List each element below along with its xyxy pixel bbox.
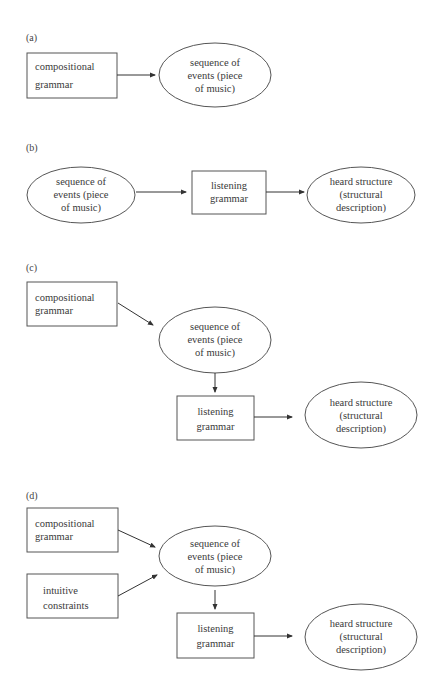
text-line: compositional [35,291,95,304]
text-line: description) [306,422,416,435]
panel-b-heard-structure-text: heard structure (structural description) [306,175,416,214]
panel-a-compositional-grammar-text: compositional grammar [35,58,95,94]
panel-d-heard-structure-text: heard structure (structural description) [306,617,416,656]
panel-c-label: (c) [26,262,37,273]
text-line: description) [306,643,416,656]
panel-c-compositional-grammar-text: compositional grammar [35,291,95,317]
panel-d-arrow-constraints-to-events [118,575,157,596]
figure-caption-clipped [26,680,416,686]
panel-b-label: (b) [26,142,38,153]
panel-d-compositional-grammar-text: compositional grammar [35,517,95,543]
panel-d-sequence-of-events-text: sequence of events (piece of music) [165,537,265,576]
text-line: listening [192,179,266,192]
panel-d-label: (d) [26,490,38,501]
text-line: compositional [35,58,95,76]
text-line: heard structure [306,175,416,188]
text-line: grammar [177,636,254,651]
text-line: heard structure [306,617,416,630]
panel-a-label: (a) [26,32,37,43]
text-line: of music) [165,82,265,95]
text-line: sequence of [165,537,265,550]
panel-b-sequence-of-events-text: sequence of events (piece of music) [31,175,131,214]
text-line: description) [306,201,416,214]
text-line: grammar [35,530,95,543]
text-line: compositional [35,517,95,530]
text-line: of music) [31,201,131,214]
text-line: heard structure [306,396,416,409]
text-line: sequence of [31,175,131,188]
panel-d-listening-grammar-text: listening grammar [177,621,254,651]
text-line: events (piece [165,333,265,346]
text-line: events (piece [31,188,131,201]
text-line: (structural [306,409,416,422]
text-line: sequence of [165,56,265,69]
text-line: sequence of [165,320,265,333]
text-line: listening [177,621,254,636]
text-line: grammar [35,304,95,317]
text-line: events (piece [165,550,265,563]
panel-b-listening-grammar-text: listening grammar [192,179,266,205]
panel-c-listening-grammar-text: listening grammar [177,404,254,434]
text-line: grammar [177,419,254,434]
panel-c-sequence-of-events-text: sequence of events (piece of music) [165,320,265,359]
text-line: of music) [165,563,265,576]
text-line: listening [177,404,254,419]
text-line: constraints [43,598,89,613]
text-line: of music) [165,346,265,359]
panel-d-intuitive-constraints-text: intuitive constraints [43,583,89,613]
text-line: intuitive [43,583,89,598]
text-line: grammar [35,76,95,94]
panel-a-sequence-of-events-text: sequence of events (piece of music) [165,56,265,95]
text-line: events (piece [165,69,265,82]
text-line: (structural [306,630,416,643]
text-line: (structural [306,188,416,201]
text-line: grammar [192,192,266,205]
panel-d-arrow-composition-to-events [118,530,155,547]
panel-c-heard-structure-text: heard structure (structural description) [306,396,416,435]
panel-c-arrow-composition-to-events [118,303,153,325]
